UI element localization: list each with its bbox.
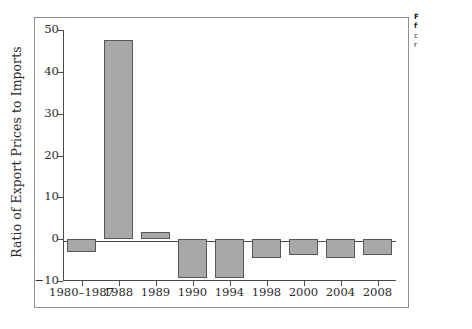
y-tick-group: 40 — [63, 72, 64, 73]
bar — [178, 239, 208, 278]
y-tick-group: 0 — [63, 239, 64, 240]
y-tick-group: −10 — [63, 281, 64, 282]
y-tick-group: 10 — [63, 197, 64, 198]
y-tick-label: 40 — [44, 64, 59, 78]
x-tick-label: 1988 — [104, 285, 134, 299]
bar — [289, 239, 319, 254]
x-tick-label: 1990 — [178, 285, 208, 299]
y-tick-group: 20 — [63, 156, 64, 157]
caption-line-3: c — [414, 31, 472, 40]
x-tick-label: 2004 — [326, 285, 356, 299]
figure-caption-truncated: F f c r — [414, 12, 472, 56]
caption-line-2: f — [414, 21, 472, 30]
bar — [67, 239, 97, 252]
y-tick-label: 50 — [44, 22, 59, 36]
x-tick-label: 1989 — [141, 285, 171, 299]
caption-line-4: r — [414, 40, 472, 49]
y-tick-label: 30 — [44, 106, 59, 120]
bar — [252, 239, 282, 258]
figure: Ratio of Export Prices to Imports 504030… — [0, 0, 472, 329]
x-tick-label: 2000 — [289, 285, 319, 299]
bar — [215, 239, 245, 277]
x-tick-label: 2008 — [363, 285, 393, 299]
y-tick-group: 30 — [63, 114, 64, 115]
x-tick-label: 1998 — [252, 285, 282, 299]
y-tick-label: 0 — [52, 231, 59, 245]
y-tick-label: 20 — [44, 148, 59, 162]
y-tick-label: 10 — [44, 189, 59, 203]
caption-line-1: F — [414, 12, 472, 21]
bar — [104, 40, 134, 239]
bar — [326, 239, 356, 258]
bar — [363, 239, 393, 254]
bar — [141, 232, 171, 239]
x-tick-label: 1994 — [215, 285, 245, 299]
y-axis-title: Ratio of Export Prices to Imports — [9, 32, 27, 272]
y-tick-group: 50 — [63, 30, 64, 31]
plot-area: 50403020100−10 1980–19871988198919901994… — [63, 30, 396, 281]
